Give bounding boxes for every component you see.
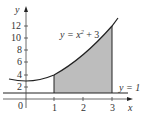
y-axis-label: y: [14, 4, 20, 15]
y-tick-4: 4: [17, 69, 22, 80]
x-axis-label: x: [127, 102, 133, 113]
x-axis-arrow-icon: [127, 97, 133, 101]
x-tick-1: 1: [52, 102, 57, 113]
y-tick-6: 6: [17, 56, 22, 67]
y-axis-arrow-icon: [24, 6, 28, 12]
origin-label: 0: [18, 100, 23, 111]
y-tick-10: 10: [11, 32, 21, 43]
y-tick-12: 12: [11, 20, 21, 31]
x-tick-2: 2: [81, 102, 86, 113]
chart: 12 10 8 6 4 2 0 1 2 3 x y y = x2 + 3 y =…: [0, 0, 146, 117]
y-tick-8: 8: [17, 44, 22, 55]
y-tick-2: 2: [17, 81, 22, 92]
line-label: y = 1: [118, 82, 140, 93]
x-tick-3: 3: [110, 102, 115, 113]
curve-label: y = x2 + 3: [59, 29, 99, 40]
